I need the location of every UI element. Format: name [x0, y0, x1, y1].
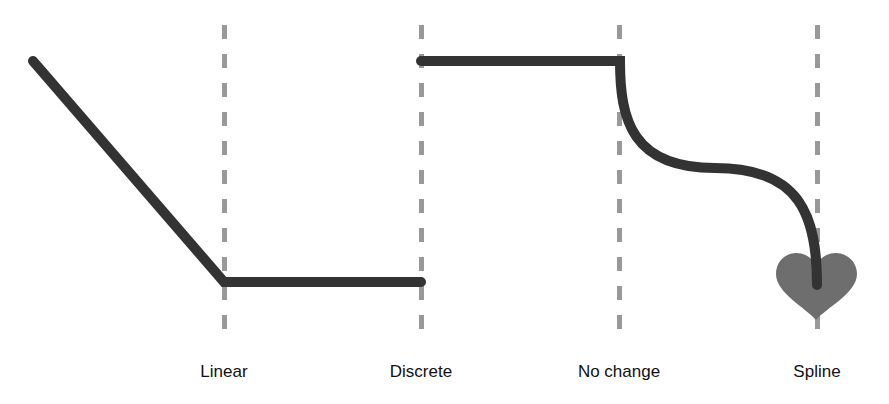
- label-discrete: Discrete: [341, 362, 501, 382]
- label-spline: Spline: [737, 362, 889, 382]
- label-linear: Linear: [144, 362, 304, 382]
- label-no-change: No change: [539, 362, 699, 382]
- interpolation-diagram: [0, 0, 889, 404]
- spline-curve: [616, 61, 817, 285]
- guide-lines: [225, 25, 818, 335]
